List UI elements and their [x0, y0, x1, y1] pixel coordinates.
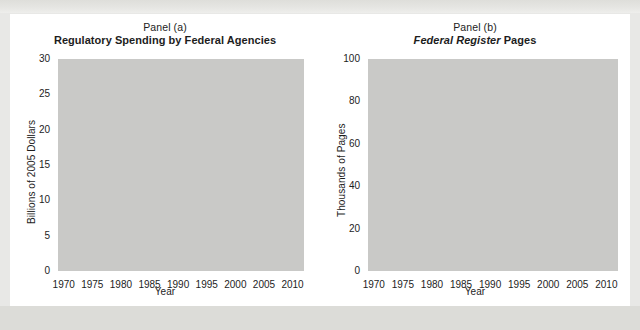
y-tick-label: 25 — [24, 89, 50, 99]
y-tick-label: 0 — [334, 266, 360, 276]
panel-a-y-axis-label: Billions of 2005 Dollars — [26, 120, 37, 224]
y-tick-label: 5 — [24, 231, 50, 241]
panel-b-title-rest: Pages — [501, 34, 537, 46]
panel-b-title: Federal Register Pages — [320, 34, 630, 46]
x-tick-label: 2010 — [589, 280, 623, 290]
panel-b: Panel (b) Federal Register Pages Thousan… — [320, 14, 630, 306]
y-tick-label: 10 — [24, 195, 50, 205]
panel-b-y-axis-label: Thousands of Pages — [336, 123, 347, 217]
panel-b-title-italic: Federal Register — [414, 34, 501, 46]
panel-a-plot-background — [58, 59, 304, 271]
panel-a-plot-area — [58, 59, 304, 271]
panel-a-label: Panel (a) — [10, 21, 320, 33]
y-tick-label: 15 — [24, 160, 50, 170]
figure-frame: Panel (a) Regulatory Spending by Federal… — [10, 14, 630, 306]
scan-artifact-band — [0, 0, 640, 13]
panel-b-label: Panel (b) — [320, 21, 630, 33]
scan-bottom-band — [0, 306, 640, 330]
y-tick-label: 60 — [334, 139, 360, 149]
y-tick-label: 100 — [334, 54, 360, 64]
panel-a-title: Regulatory Spending by Federal Agencies — [10, 34, 320, 46]
y-tick-label: 40 — [334, 181, 360, 191]
panel-b-plot-area — [368, 59, 618, 271]
y-tick-label: 80 — [334, 96, 360, 106]
panel-a: Panel (a) Regulatory Spending by Federal… — [10, 14, 320, 306]
x-tick-label: 2010 — [276, 280, 310, 290]
y-tick-label: 20 — [334, 224, 360, 234]
y-tick-label: 20 — [24, 125, 50, 135]
y-tick-label: 30 — [24, 54, 50, 64]
panel-b-plot-background — [368, 59, 618, 271]
y-tick-label: 0 — [24, 266, 50, 276]
